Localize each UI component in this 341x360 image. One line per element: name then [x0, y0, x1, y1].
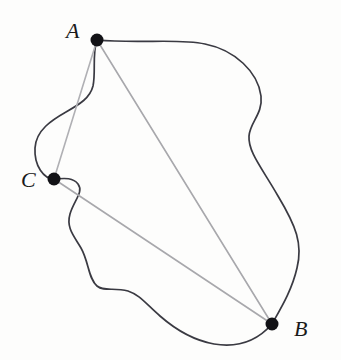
point-label-a: A [66, 20, 79, 42]
figure-canvas [0, 0, 341, 360]
chord-a-b [97, 40, 272, 324]
point-marker-a [91, 34, 104, 47]
point-marker-b [266, 318, 279, 331]
point-label-b: B [294, 318, 307, 340]
chord-c-b [54, 179, 272, 324]
point-label-c: C [21, 169, 36, 191]
geometry-figure: A C B [0, 0, 341, 360]
point-marker-c [48, 173, 61, 186]
chord-a-c [54, 40, 97, 179]
